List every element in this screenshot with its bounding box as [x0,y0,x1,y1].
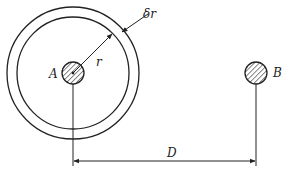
label-shell-thickness: δr [143,7,157,21]
label-a: A [48,67,58,81]
label-b: B [272,66,282,80]
radius-arrow [73,34,112,73]
label-radius: r [96,55,103,69]
conductor-b [245,62,267,84]
label-distance: D [166,146,177,160]
conductor-flux-diagram: A B r δr D [0,0,297,174]
